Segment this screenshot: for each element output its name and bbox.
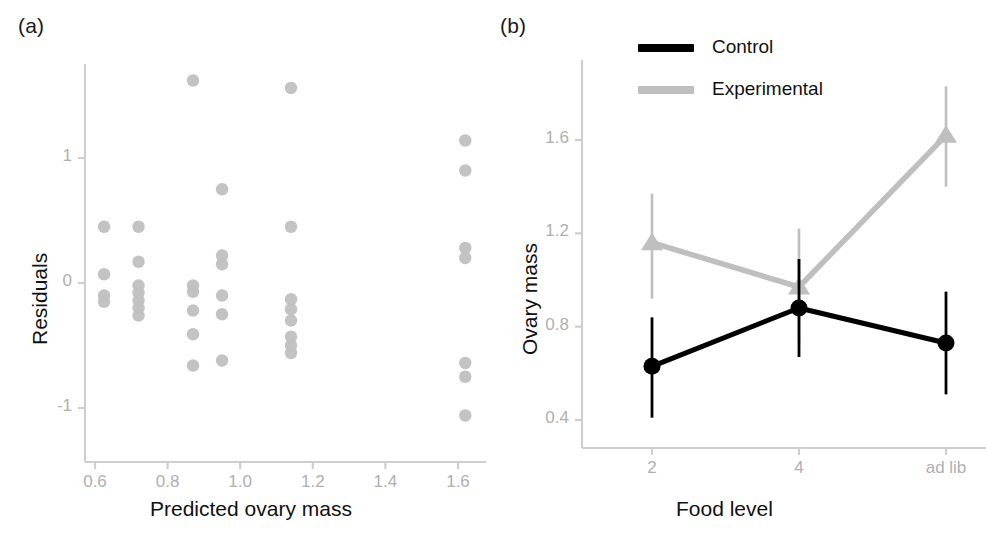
- panel-b-y-tick-label: 1.6: [545, 128, 569, 148]
- marker-circle-control: [644, 358, 661, 375]
- scatter-point: [459, 164, 471, 176]
- panel-a-plot-area: [0, 0, 494, 544]
- panel-a-y-tick-label: 0: [63, 271, 72, 291]
- scatter-point: [216, 183, 228, 195]
- scatter-point: [285, 314, 297, 326]
- scatter-point: [187, 328, 199, 340]
- scatter-point: [132, 221, 144, 233]
- panel-b-y-tick-label: 0.4: [545, 408, 569, 428]
- panel-b-y-tick-label: 0.8: [545, 315, 569, 335]
- scatter-point: [459, 252, 471, 264]
- scatter-point: [187, 359, 199, 371]
- panel-b-x-tick-label: ad lib: [926, 458, 967, 478]
- panel-b-x-tick-label: 2: [647, 458, 656, 478]
- scatter-point: [459, 134, 471, 146]
- scatter-point: [285, 303, 297, 315]
- marker-circle-control: [938, 335, 955, 352]
- scatter-point: [132, 309, 144, 321]
- scatter-point: [285, 82, 297, 94]
- scatter-point: [98, 268, 110, 280]
- scatter-point: [459, 409, 471, 421]
- panel-a-residual-scatter: (a) Residuals Predicted ovary mass 10-10…: [0, 0, 494, 544]
- scatter-point: [187, 74, 199, 86]
- panel-b-interaction-plot: (b) Ovary mass Food level Control Experi…: [494, 0, 988, 544]
- panel-a-x-tick-label: 1.0: [228, 472, 252, 492]
- panel-a-x-tick-label: 1.6: [446, 472, 470, 492]
- scatter-point: [285, 347, 297, 359]
- scatter-point: [216, 308, 228, 320]
- panel-b-y-tick-label: 1.2: [545, 221, 569, 241]
- panel-b-plot-area: [494, 0, 988, 544]
- scatter-point: [132, 256, 144, 268]
- marker-triangle-experimental: [641, 233, 663, 251]
- marker-triangle-experimental: [935, 125, 957, 143]
- panel-a-x-tick-label: 0.8: [156, 472, 180, 492]
- scatter-point: [216, 258, 228, 270]
- scatter-point: [187, 304, 199, 316]
- panel-a-x-tick-label: 0.6: [83, 472, 107, 492]
- panel-a-x-tick-label: 1.4: [374, 472, 398, 492]
- scatter-point: [98, 296, 110, 308]
- figure-container: (a) Residuals Predicted ovary mass 10-10…: [0, 0, 988, 544]
- scatter-point: [98, 221, 110, 233]
- panel-a-y-tick-label: 1: [63, 146, 72, 166]
- panel-b-x-tick-label: 4: [794, 458, 803, 478]
- panel-a-x-tick-label: 1.2: [301, 472, 325, 492]
- panel-a-y-tick-label: -1: [57, 396, 72, 416]
- scatter-point: [459, 371, 471, 383]
- marker-circle-control: [791, 300, 808, 317]
- scatter-point: [216, 354, 228, 366]
- scatter-point: [216, 289, 228, 301]
- scatter-point: [285, 221, 297, 233]
- scatter-point: [459, 357, 471, 369]
- scatter-point: [187, 286, 199, 298]
